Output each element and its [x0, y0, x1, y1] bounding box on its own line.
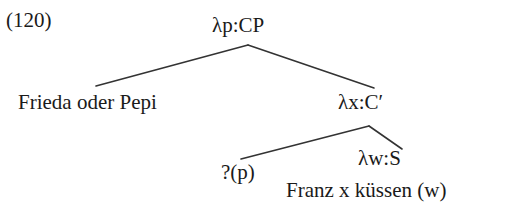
tree-leaf-question-operator: ?(p): [221, 162, 255, 183]
branch-root-to-right: [248, 45, 374, 88]
tree-leaf-subject: Frieda oder Pepi: [18, 92, 157, 113]
tree-node-cbar: λx:C′: [338, 92, 383, 113]
tree-node-root-cp: λp:CP: [212, 15, 264, 36]
tree-leaf-predicate-body: Franz x küssen (w): [286, 180, 446, 201]
example-number: (120): [6, 10, 52, 31]
tree-diagram-figure: (120) λp:CP Frieda oder Pepi λx:C′ ?(p) …: [0, 0, 514, 217]
branch-root-to-left: [96, 45, 248, 86]
tree-node-lambda-w-s: λw:S: [358, 148, 401, 169]
branch-cbar-to-left: [241, 126, 369, 159]
